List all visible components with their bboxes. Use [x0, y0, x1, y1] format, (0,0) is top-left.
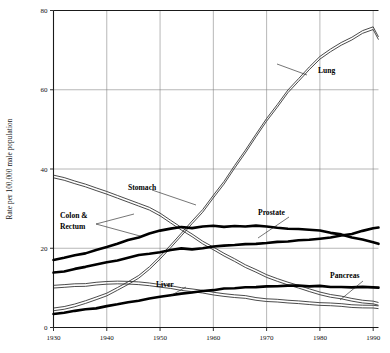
series-label-liver: Liver [156, 280, 174, 289]
x-tick-label: 1950 [153, 334, 168, 342]
series-label-prostate: Prostate [258, 208, 285, 217]
x-tick-label: 1990 [366, 334, 381, 342]
x-tick-label: 1940 [100, 334, 115, 342]
y-tick-label: 0 [44, 324, 48, 332]
y-tick-label: 40 [41, 166, 49, 174]
x-tick-label: 1960 [206, 334, 221, 342]
y-tick-label: 80 [41, 7, 49, 15]
x-tick-label: 1930 [47, 334, 62, 342]
x-tick-label: 1970 [260, 334, 275, 342]
cancer-death-rates-chart: 0204060801930194019501960197019801990Rat… [0, 0, 390, 353]
series-prostate [54, 228, 379, 273]
series-label-rectum: Rectum [60, 222, 86, 231]
x-tick-label: 1980 [313, 334, 328, 342]
annotation-leaders [96, 64, 363, 300]
series-label-stomach: Stomach [128, 183, 157, 192]
series-label-lung: Lung [318, 66, 336, 75]
chart-canvas: 0204060801930194019501960197019801990Rat… [0, 0, 390, 353]
series-colon-rectum [54, 226, 379, 260]
series-label-pancreas: Pancreas [330, 271, 359, 280]
series-pancreas [54, 286, 379, 314]
y-tick-label: 20 [41, 245, 49, 253]
series-label-colon: Colon & [60, 211, 88, 220]
annotations: LungStomachColon &RectumProstateLiverPan… [60, 66, 359, 289]
y-tick-label: 60 [41, 86, 49, 94]
y-axis-label: Rate per 100,000 male population [6, 118, 14, 219]
